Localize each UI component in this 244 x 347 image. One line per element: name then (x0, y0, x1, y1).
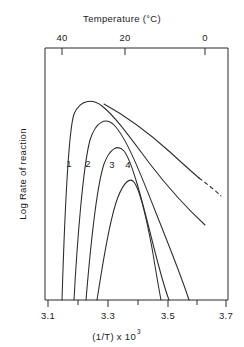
bottom-tick-label-3-3: 3.3 (101, 310, 115, 321)
bottom-axis-title: (1/T) x 10 3 (92, 328, 141, 342)
bottom-axis-title-main: (1/T) x 10 (92, 331, 136, 342)
bottom-axis-minor-ticks (78, 300, 197, 305)
bottom-axis-major-ticks (48, 300, 226, 307)
top-tick-label-0: 0 (202, 32, 208, 43)
reaction-curve-2 (74, 121, 189, 300)
reaction-curve-4 (97, 180, 161, 300)
arrhenius-rate-plot: Temperature (°C) 40 20 0 3.1 3 (0, 0, 244, 347)
top-tick-label-40: 40 (56, 32, 67, 43)
top-tick-label-20: 20 (119, 32, 130, 43)
reaction-curve-1 (62, 101, 205, 300)
curve-label-1: 1 (66, 158, 71, 169)
common-envelope-dashed-extension (199, 178, 221, 196)
bottom-tick-label-3-7: 3.7 (219, 310, 233, 321)
y-axis-title: Log Rate of reaction (17, 128, 28, 220)
figure-container: Temperature (°C) 40 20 0 3.1 3 (0, 0, 244, 347)
top-axis-title: Temperature (°C) (83, 13, 161, 24)
top-axis-ticks (62, 48, 205, 55)
common-envelope-solid (104, 104, 199, 178)
bottom-axis-title-exponent: 3 (137, 328, 141, 335)
bottom-tick-label-3-5: 3.5 (161, 310, 175, 321)
bottom-tick-label-3-1: 3.1 (41, 310, 55, 321)
curve-label-3: 3 (109, 159, 114, 170)
curve-label-2: 2 (85, 158, 90, 169)
curve-label-4: 4 (125, 159, 130, 170)
